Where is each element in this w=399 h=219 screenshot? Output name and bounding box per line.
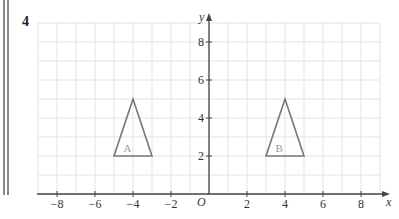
x-tick-label: −2	[165, 197, 178, 211]
x-axis-label: x	[385, 195, 392, 209]
y-tick-label: 6	[198, 73, 204, 87]
y-axis-arrow-icon	[206, 13, 212, 21]
x-tick-label: 8	[358, 197, 364, 211]
x-tick-label: −8	[51, 197, 64, 211]
x-tick-label: 2	[244, 197, 250, 211]
x-tick-label: 6	[320, 197, 326, 211]
x-tick-label: −6	[89, 197, 102, 211]
coordinate-grid: xyO −8−6−4−224682468 AB	[0, 0, 399, 219]
y-tick-label: 2	[198, 149, 204, 163]
axes: xyO	[37, 10, 392, 209]
triangle-label-b: B	[276, 142, 283, 154]
triangle-label-a: A	[124, 142, 132, 154]
y-tick-label: 8	[198, 35, 204, 49]
y-tick-label: 4	[198, 111, 204, 125]
y-axis-label: y	[198, 10, 205, 24]
x-tick-label: −4	[127, 197, 140, 211]
x-tick-label: 4	[282, 197, 288, 211]
origin-label: O	[197, 195, 206, 209]
